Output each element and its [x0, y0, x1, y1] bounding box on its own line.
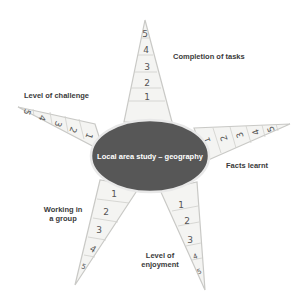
center-label: Local area study – geography: [97, 152, 204, 161]
label-level-of-challenge: Level of challenge: [24, 91, 94, 100]
scale-3: 3: [96, 225, 102, 235]
scale-5: 5: [142, 29, 148, 39]
arm-level-of-challenge: 5 4 3 2 1: [18, 107, 104, 152]
scale-4: 4: [143, 45, 149, 55]
label-line-2: a group: [38, 214, 88, 223]
label-level-of-enjoyment: Level of enjoyment: [136, 251, 184, 269]
label-facts-learnt: Facts learnt: [226, 161, 286, 170]
scale-1: 1: [178, 200, 184, 210]
scale-3: 3: [144, 62, 150, 72]
scale-1: 1: [111, 189, 117, 199]
arm-completion-of-tasks: 5 4 3 2 1: [124, 20, 172, 122]
scale-5: 5: [21, 108, 32, 117]
scale-1: 1: [144, 92, 150, 102]
scale-3: 3: [187, 235, 193, 245]
label-working-in-a-group: Working in a group: [38, 205, 88, 223]
scale-2: 2: [184, 216, 190, 226]
label-line-1: Level of: [136, 251, 184, 260]
scale-2: 2: [103, 207, 109, 217]
arm-level-of-enjoyment: 1 2 3 4 5: [160, 182, 205, 290]
label-line-2: enjoyment: [136, 260, 184, 269]
label-completion-of-tasks: Completion of tasks: [173, 52, 263, 61]
scale-2: 2: [144, 78, 150, 88]
arm-working-in-a-group: 1 2 3 4 5: [75, 180, 140, 285]
center-topic: Local area study – geography: [91, 120, 209, 192]
label-line-1: Working in: [38, 205, 88, 214]
